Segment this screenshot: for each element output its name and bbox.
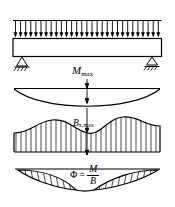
label-m-max-variable: M	[72, 64, 81, 76]
curvature-mid-link	[76, 190, 94, 191]
fraction-numerator: M	[87, 164, 99, 174]
support-left	[14, 57, 30, 71]
beam-body	[13, 39, 162, 57]
panel-moment-diagram	[14, 79, 160, 106]
label-b-max: Bx.max	[73, 119, 94, 129]
label-phi-formula: Φ = M B	[70, 164, 99, 186]
distributed-load-arrows	[14, 21, 161, 37]
curvature-right-hatching	[98, 165, 152, 196]
fraction-m-over-b: M B	[87, 164, 99, 186]
label-m-max-subscript: max	[81, 70, 93, 77]
figure-container: Mmax Bx.max Φ = M B	[0, 0, 175, 207]
label-b-max-subscript: x.max	[79, 122, 94, 128]
label-m-max: Mmax	[72, 65, 93, 77]
fraction-denominator: B	[88, 176, 98, 186]
equals-sign: =	[79, 170, 85, 180]
curvature-right-lens	[94, 170, 158, 190]
panel-rigidity-diagram	[14, 108, 160, 155]
phi-symbol: Φ	[70, 170, 77, 180]
support-right	[144, 57, 160, 71]
curvature-left-lens	[18, 170, 76, 190]
moment-max-ordinate	[85, 79, 88, 104]
panel-loaded-beam	[13, 21, 162, 72]
